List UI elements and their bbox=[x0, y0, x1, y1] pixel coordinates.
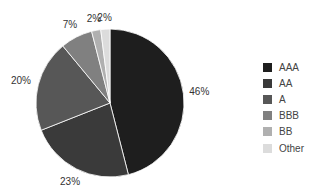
legend-item-a: A bbox=[263, 91, 304, 107]
legend-swatch bbox=[263, 111, 272, 120]
legend-swatch bbox=[263, 79, 272, 88]
legend-swatch bbox=[263, 144, 272, 153]
legend-label: BBB bbox=[279, 110, 299, 121]
pie-label-aaa: 46% bbox=[189, 86, 209, 97]
pie-label-aa: 23% bbox=[60, 176, 80, 187]
pie-label-other: 2% bbox=[97, 12, 112, 23]
legend-item-bbb: BBB bbox=[263, 108, 304, 124]
legend-label: AA bbox=[279, 78, 292, 89]
legend: AAA AA A BBB BB Other bbox=[263, 59, 304, 156]
pie-slices bbox=[36, 29, 184, 177]
legend-swatch bbox=[263, 127, 272, 136]
pie-label-a: 20% bbox=[11, 75, 31, 86]
legend-item-aaa: AAA bbox=[263, 59, 304, 75]
legend-swatch bbox=[263, 95, 272, 104]
pie-label-bbb: 7% bbox=[63, 19, 78, 30]
legend-item-aa: AA bbox=[263, 75, 304, 91]
legend-item-bb: BB bbox=[263, 124, 304, 140]
legend-label: AAA bbox=[279, 62, 299, 73]
legend-item-other: Other bbox=[263, 140, 304, 156]
legend-label: BB bbox=[279, 126, 292, 137]
legend-label: Other bbox=[279, 143, 304, 154]
legend-swatch bbox=[263, 63, 272, 72]
legend-label: A bbox=[279, 94, 286, 105]
